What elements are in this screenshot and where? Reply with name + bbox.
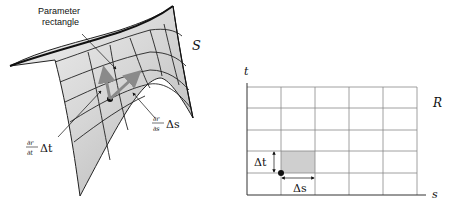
svg-text:∂t: ∂t (27, 149, 33, 157)
surface-sheet (10, 6, 193, 196)
figure-canvas: Parameter rectangle S ∂r ∂t Δt ∂r ∂s Δs (0, 0, 452, 207)
region-label-r: R (432, 96, 442, 110)
region-base-point (278, 170, 284, 176)
svg-text:∂r: ∂r (153, 115, 160, 123)
callout-label-line1: Parameter (38, 6, 80, 16)
label-partial-t: ∂r ∂t Δt (26, 139, 53, 157)
svg-text:Δt: Δt (40, 142, 53, 155)
callout-label-line2: rectangle (42, 17, 79, 27)
parameter-region: t s R Δt Δs (244, 65, 442, 201)
axis-label-s: s (432, 188, 438, 201)
surface-s: Parameter rectangle S ∂r ∂t Δt ∂r ∂s Δs (10, 6, 201, 196)
svg-text:∂s: ∂s (153, 125, 160, 133)
axis-label-t: t (244, 65, 249, 78)
highlight-cell (281, 151, 315, 173)
parameter-grid (247, 87, 417, 195)
surface-label-s: S (192, 38, 201, 53)
label-partial-s: ∂r ∂s Δs (152, 115, 180, 133)
svg-text:Δs: Δs (166, 118, 180, 131)
svg-text:∂r: ∂r (27, 139, 34, 147)
delta-s-label: Δs (293, 182, 307, 195)
delta-t-label: Δt (254, 156, 267, 169)
